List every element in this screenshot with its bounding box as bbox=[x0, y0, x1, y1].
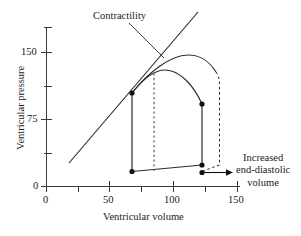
marker-aortic-valve-opens bbox=[129, 90, 134, 95]
baseline-loop-upper-curve bbox=[132, 70, 202, 104]
increased-label-line-3: volume bbox=[236, 177, 290, 189]
increased-edv-arrow bbox=[203, 169, 233, 175]
y-tick-label-150: 150 bbox=[21, 47, 37, 58]
x-tick-label-100: 100 bbox=[164, 195, 180, 206]
marker-end-diastolic bbox=[129, 169, 134, 174]
x-tick-label-150: 150 bbox=[228, 195, 244, 206]
contractility-leader-line bbox=[129, 23, 164, 58]
contractility-line bbox=[69, 12, 198, 163]
x-axis-title: Ventricular volume bbox=[103, 212, 184, 223]
loop-point-markers bbox=[129, 90, 204, 175]
increased-label-line-1: Increased bbox=[236, 152, 290, 164]
y-tick-label-75: 75 bbox=[27, 114, 38, 125]
marker-end-systolic bbox=[199, 101, 204, 106]
y-axis-title: Ventricular pressure bbox=[16, 66, 27, 150]
contractility-label: Contractility bbox=[93, 10, 146, 22]
increased-end-diastolic-volume-label: Increased end-diastolic volume bbox=[236, 152, 290, 189]
increased-label-line-2: end-diastolic bbox=[236, 164, 290, 176]
increased-edv-arrow-head bbox=[226, 169, 233, 175]
axis-lines bbox=[47, 27, 241, 187]
y-tick-label-0: 0 bbox=[33, 181, 38, 192]
increased-loop-dashed-filling bbox=[202, 165, 220, 172]
increased-loop-dashed-descent bbox=[216, 72, 220, 165]
pv-loop-figure: 150 75 0 0 50 100 150 Ventricular pressu… bbox=[0, 0, 301, 236]
x-tick-label-50: 50 bbox=[103, 195, 114, 206]
x-tick-label-0: 0 bbox=[43, 195, 48, 206]
marker-mitral-valve-opens bbox=[199, 162, 204, 167]
baseline-loop-bottom-filling bbox=[132, 165, 202, 172]
